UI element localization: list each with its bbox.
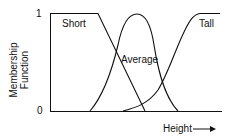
label-tall: Tall [199, 18, 214, 29]
x-axis-label: Height [163, 123, 192, 134]
y-axis-label-line1: Membership [8, 42, 19, 97]
label-average: Average [121, 54, 158, 65]
arrow-right-icon [210, 126, 216, 132]
label-short: Short [62, 18, 86, 29]
ytick-zero: 0 [37, 105, 43, 116]
y-axis-label-line2: Function [19, 42, 30, 97]
membership-function-chart: 1 0 Membership Function Short Average Ta… [0, 0, 235, 138]
y-axis-label: Membership Function [4, 40, 34, 100]
ytick-one: 1 [36, 8, 42, 19]
